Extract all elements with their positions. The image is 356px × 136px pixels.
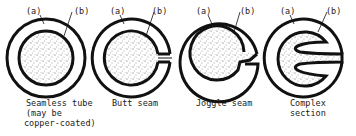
caption-seamless-3: copper-coated) bbox=[24, 118, 96, 128]
section-seamless: (a) (b) bbox=[7, 6, 89, 97]
label-a: (a) bbox=[26, 6, 41, 16]
label-b: (b) bbox=[326, 6, 341, 16]
label-a: (a) bbox=[280, 6, 295, 16]
section-complex: (a) (b) bbox=[264, 6, 342, 97]
leader-a bbox=[208, 15, 212, 24]
label-b: (b) bbox=[152, 6, 167, 16]
section-butt: (a) (b) bbox=[92, 6, 172, 97]
caption-joggle: Joggle seam bbox=[196, 98, 252, 108]
caption-complex-1: Complex bbox=[290, 98, 326, 108]
label-b: (b) bbox=[74, 6, 89, 16]
caption-seamless-1: Seamless tube bbox=[26, 98, 93, 108]
caption-complex-2: section bbox=[290, 108, 326, 118]
caption-butt: Butt seam bbox=[112, 98, 158, 108]
flux-core bbox=[19, 31, 73, 85]
folded-core bbox=[278, 32, 342, 86]
label-a: (a) bbox=[110, 6, 125, 16]
section-joggle: (a) (b) bbox=[180, 6, 258, 102]
label-b: (b) bbox=[240, 6, 255, 16]
inner-sheath bbox=[104, 31, 158, 85]
diagram-canvas: (a) (b) (a) (b) (a) (b) (a) (b) Seamless… bbox=[0, 0, 356, 136]
caption-seamless-2: (may be bbox=[26, 108, 62, 118]
label-a: (a) bbox=[196, 6, 211, 16]
